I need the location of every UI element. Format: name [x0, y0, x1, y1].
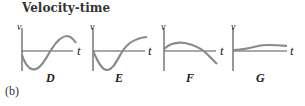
panel-tag: (b)	[5, 84, 19, 99]
graph-g: v t G	[231, 21, 294, 85]
v-axis-label: v	[231, 21, 236, 32]
t-axis-label: t	[220, 43, 224, 58]
t-axis-label: t	[148, 43, 152, 58]
graph-label-f: F	[185, 71, 194, 85]
v-axis-label: v	[90, 21, 95, 32]
graph-f: v t F	[161, 21, 224, 85]
graph-label-d: D	[45, 71, 55, 85]
velocity-time-graphs: v t D v t E v t F v t G	[0, 0, 305, 106]
graph-e: v t E	[90, 21, 152, 85]
t-axis-label: t	[290, 43, 294, 58]
graph-d: v t D	[17, 21, 81, 85]
graph-label-g: G	[256, 71, 265, 85]
graph-label-e: E	[114, 71, 123, 85]
t-axis-label: t	[77, 43, 81, 58]
v-axis-label: v	[17, 21, 22, 32]
v-axis-label: v	[161, 21, 166, 32]
